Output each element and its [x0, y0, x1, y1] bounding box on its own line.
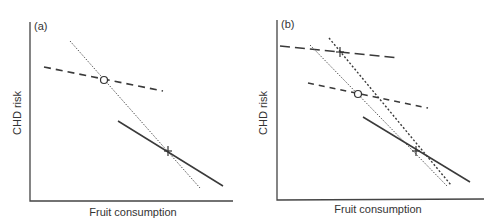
panel-a-label: (a)	[34, 20, 47, 32]
panel-a-xlabel: Fruit consumption	[89, 206, 176, 218]
panel-b-xlabel: Fruit consumption	[334, 203, 421, 215]
panel-a: (a) CHD risk Fruit consumption	[11, 20, 233, 218]
panel-a-dotted-line	[70, 41, 200, 188]
panel-a-ylabel: CHD risk	[11, 91, 23, 135]
panel-b-dotted-line-fine	[310, 45, 447, 186]
panel-b-label: (b)	[281, 18, 294, 30]
panel-a-solid-line	[118, 121, 223, 186]
figure: (a) CHD risk Fruit consumption (b) CHD r…	[0, 0, 495, 224]
panel-b: (b) CHD risk Fruit consumption	[257, 18, 484, 215]
panel-b-dotted-line-coarse	[329, 38, 451, 185]
panel-b-circle-marker	[355, 91, 362, 98]
panel-a-circle-marker	[101, 77, 108, 84]
panel-b-axes	[277, 20, 484, 200]
panel-b-dashed-line	[308, 83, 428, 108]
panel-b-ylabel: CHD risk	[257, 91, 269, 135]
